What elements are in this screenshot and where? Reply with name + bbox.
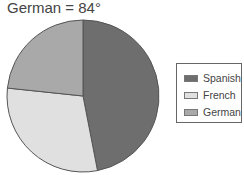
legend: Spanish French German [176,63,242,123]
legend-label: French [203,89,236,101]
pie-slices [7,20,159,172]
pie-slice-german [7,20,83,96]
legend-swatch-spanish [184,75,198,82]
legend-item-spanish: Spanish [184,72,241,84]
legend-item-german: German [184,106,241,118]
legend-swatch-german [184,109,198,116]
legend-swatch-french [184,92,198,99]
legend-item-french: French [184,89,236,101]
pie-slice-spanish [83,20,159,171]
legend-label: German [203,106,241,118]
legend-label: Spanish [203,72,241,84]
pie-slice-french [7,88,98,172]
